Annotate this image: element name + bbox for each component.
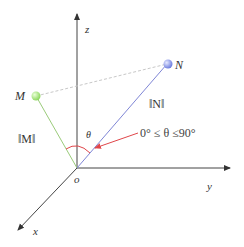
point-n — [164, 60, 173, 69]
point-n-label: N — [174, 58, 184, 72]
norm-m-label: ‖M‖ — [18, 132, 35, 146]
vector-on — [77, 64, 167, 168]
angle-range-label: 0° ≤ θ ≤90° — [140, 126, 196, 140]
x-axis — [18, 168, 77, 230]
dashed-link-m-n — [36, 64, 167, 96]
vector-om — [36, 96, 77, 168]
y-axis-label: y — [206, 180, 212, 192]
z-axis-label: z — [84, 23, 90, 35]
origin-label: o — [74, 173, 80, 185]
norm-n-label: ‖N‖ — [149, 97, 164, 111]
vector-angle-diagram: z y x o M N ‖N‖ ‖M‖ θ 0° ≤ θ ≤90° — [0, 0, 244, 247]
theta-label: θ — [86, 129, 91, 140]
point-m-label: M — [14, 89, 26, 103]
x-axis-label: x — [32, 225, 38, 237]
angle-arc — [66, 146, 90, 153]
point-m — [32, 92, 41, 101]
